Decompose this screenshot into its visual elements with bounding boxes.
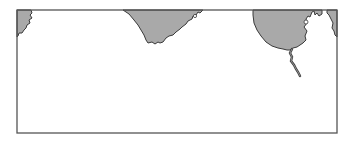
lake-icon <box>304 20 308 24</box>
landmass-right <box>253 10 322 76</box>
landmass-left <box>17 10 32 37</box>
river-icon <box>290 49 300 76</box>
map <box>0 0 353 142</box>
landmass-center <box>123 10 203 44</box>
lake-icon <box>193 14 196 17</box>
landmass-far-right <box>327 10 337 37</box>
